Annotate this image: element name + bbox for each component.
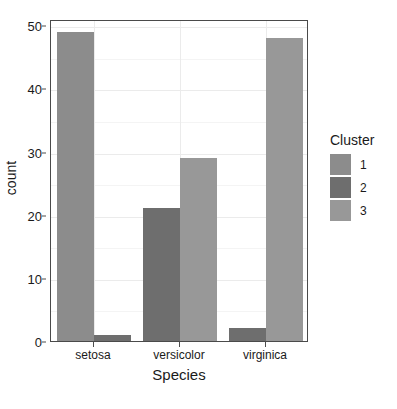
x-tick-mark xyxy=(179,342,180,347)
gridline-major xyxy=(51,27,307,28)
x-axis-title: Species xyxy=(50,366,308,383)
y-axis-title-text: count xyxy=(3,160,19,194)
plot-panel xyxy=(50,20,308,342)
bar xyxy=(229,328,266,341)
y-axis-ticks: 01020304050 xyxy=(22,0,46,355)
y-tick-label: 40 xyxy=(28,82,42,97)
x-tick-mark xyxy=(93,342,94,347)
y-tick-mark xyxy=(42,215,46,216)
legend-item[interactable]: 1 xyxy=(330,154,394,175)
bar xyxy=(94,335,131,341)
y-tick-mark xyxy=(42,278,46,279)
x-axis-ticks: setosaversicolorvirginica xyxy=(50,342,308,348)
legend-items: 123 xyxy=(316,154,394,221)
y-tick-label: 20 xyxy=(28,208,42,223)
legend-label: 2 xyxy=(360,182,367,194)
y-tick-label: 30 xyxy=(28,145,42,160)
gridline-vertical xyxy=(94,21,95,341)
legend-swatch xyxy=(330,154,351,175)
legend-title: Cluster xyxy=(330,132,394,148)
y-tick-label: 50 xyxy=(28,19,42,34)
y-tick-label: 0 xyxy=(35,335,42,350)
x-tick-mark xyxy=(265,342,266,347)
legend-swatch xyxy=(330,200,351,221)
x-tick-label: versicolor xyxy=(153,348,204,362)
legend: Cluster 123 xyxy=(316,132,394,221)
bar xyxy=(57,32,94,341)
y-tick-mark xyxy=(42,152,46,153)
bar xyxy=(143,208,180,341)
legend-label: 3 xyxy=(360,205,367,217)
bar-chart: count 01020304050 setosaversicolorvirgin… xyxy=(0,0,397,409)
legend-item[interactable]: 2 xyxy=(330,177,394,198)
legend-item[interactable]: 3 xyxy=(330,200,394,221)
y-tick-mark xyxy=(42,89,46,90)
x-tick-label: setosa xyxy=(75,348,110,362)
legend-label: 1 xyxy=(360,159,367,171)
bar xyxy=(180,158,217,341)
y-axis-title: count xyxy=(0,0,22,355)
y-tick-label: 10 xyxy=(28,271,42,286)
y-tick-mark xyxy=(42,342,46,343)
x-tick-label: virginica xyxy=(243,348,287,362)
y-tick-mark xyxy=(42,26,46,27)
legend-swatch xyxy=(330,177,351,198)
bar xyxy=(266,38,303,341)
